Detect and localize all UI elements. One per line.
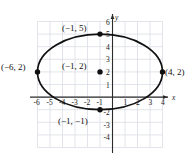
point-bottom-vertex [97, 107, 102, 112]
y-tick-2: 2 [106, 68, 110, 77]
y-tick-6: 6 [106, 18, 110, 27]
y-tick-3: 3 [106, 55, 110, 64]
graph-svg: x y -6 -5 -4 -3 -2 -1 1 2 3 4 6 5 4 3 2 … [0, 0, 191, 159]
point-top-vertex [97, 31, 102, 36]
x-tick-3: 3 [149, 98, 153, 107]
y-tick-4: 4 [106, 43, 110, 52]
point-label-top: (−1, 5) [62, 23, 87, 33]
x-tick-4: 4 [161, 98, 165, 107]
y-tick-neg4: -4 [104, 133, 110, 142]
x-tick-neg6: -6 [34, 98, 40, 107]
ellipse-graph-figure: x y -6 -5 -4 -3 -2 -1 1 2 3 4 6 5 4 3 2 … [0, 0, 191, 159]
y-axis-label: y [114, 13, 119, 22]
y-tick-1: 1 [106, 81, 110, 90]
point-left-vertex [35, 69, 40, 74]
x-tick-neg2: -2 [84, 98, 90, 107]
point-center [97, 69, 102, 74]
x-tick-neg5: -5 [47, 98, 53, 107]
point-label-center: (−1, 2) [62, 61, 87, 71]
point-label-right: (4, 2) [165, 67, 185, 77]
x-axis-label: x [171, 93, 176, 102]
x-tick-neg1: -1 [97, 98, 103, 107]
point-label-bottom: (−1, −1) [58, 116, 88, 126]
point-label-left: (−6, 2) [1, 62, 26, 72]
y-tick-neg3: -3 [104, 121, 110, 130]
